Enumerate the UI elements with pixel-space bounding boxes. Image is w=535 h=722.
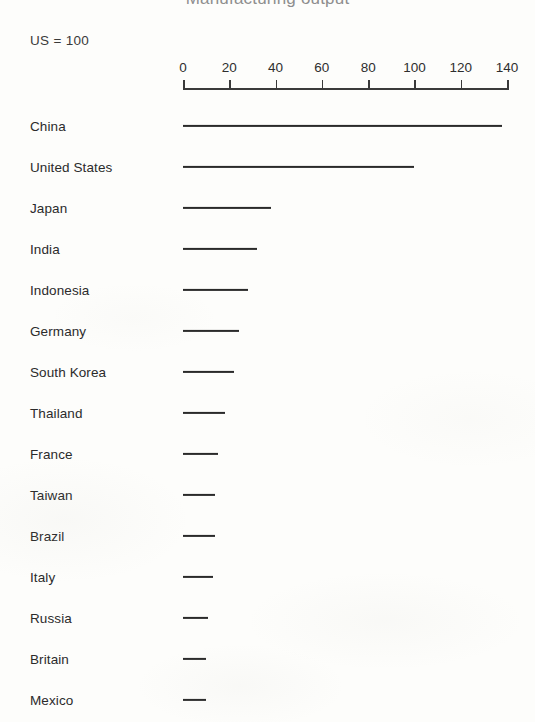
category-label: Germany xyxy=(30,323,86,338)
category-label: India xyxy=(30,241,60,256)
value-bar xyxy=(183,165,414,167)
manufacturing-output-chart: Manufacturing output US = 100 0204060801… xyxy=(0,0,535,722)
x-axis-line xyxy=(183,88,507,90)
value-bar xyxy=(183,411,225,413)
category-label: Taiwan xyxy=(30,487,73,502)
category-label: China xyxy=(30,118,66,133)
value-bar xyxy=(183,575,213,577)
chart-row: Germany xyxy=(0,310,535,351)
x-axis-tick xyxy=(276,80,278,90)
category-label: Italy xyxy=(30,569,55,584)
chart-title-cropped: Manufacturing output xyxy=(0,0,535,9)
x-axis-tick xyxy=(322,80,324,90)
x-axis-tick xyxy=(183,80,185,90)
chart-row: Mexico xyxy=(0,679,535,720)
value-bar xyxy=(183,493,215,495)
value-bar xyxy=(183,329,239,331)
x-axis-tick-label: 120 xyxy=(449,60,472,75)
chart-row: Thailand xyxy=(0,392,535,433)
category-label: Indonesia xyxy=(30,282,89,297)
x-axis-tick xyxy=(229,80,231,90)
x-axis-tick-label: 100 xyxy=(403,60,426,75)
x-axis-tick xyxy=(368,80,370,90)
value-bar xyxy=(183,206,271,208)
value-bar xyxy=(183,124,502,126)
category-label: Mexico xyxy=(30,692,73,707)
chart-subtitle: US = 100 xyxy=(30,33,89,48)
category-label: Russia xyxy=(30,610,72,625)
chart-row: South Korea xyxy=(0,351,535,392)
x-axis-tick-label: 80 xyxy=(361,60,376,75)
chart-title-text: Manufacturing output xyxy=(186,0,350,9)
x-axis-tick-label: 40 xyxy=(268,60,283,75)
chart-row: Britain xyxy=(0,638,535,679)
value-bar xyxy=(183,370,234,372)
chart-row: China xyxy=(0,105,535,146)
value-bar xyxy=(183,616,208,618)
chart-row: Italy xyxy=(0,556,535,597)
x-axis: 020406080100120140 xyxy=(183,88,507,90)
chart-row: United States xyxy=(0,146,535,187)
x-axis-tick-label: 140 xyxy=(496,60,519,75)
x-axis-tick-label: 20 xyxy=(222,60,237,75)
value-bar xyxy=(183,452,218,454)
x-axis-tick xyxy=(461,80,463,90)
category-label: France xyxy=(30,446,73,461)
value-bar xyxy=(183,657,206,659)
category-label: Thailand xyxy=(30,405,83,420)
chart-row: Taiwan xyxy=(0,474,535,515)
category-label: South Korea xyxy=(30,364,106,379)
chart-row: Russia xyxy=(0,597,535,638)
category-label: Brazil xyxy=(30,528,64,543)
value-bar xyxy=(183,534,215,536)
x-axis-tick xyxy=(507,80,509,90)
value-bar xyxy=(183,698,206,700)
x-axis-tick xyxy=(414,80,416,90)
x-axis-tick-label: 60 xyxy=(314,60,329,75)
chart-row: France xyxy=(0,433,535,474)
category-label: United States xyxy=(30,159,112,174)
category-label: Britain xyxy=(30,651,69,666)
chart-row: Brazil xyxy=(0,515,535,556)
value-bar xyxy=(183,247,257,249)
chart-row: Indonesia xyxy=(0,269,535,310)
x-axis-tick-label: 0 xyxy=(179,60,187,75)
chart-row: Japan xyxy=(0,187,535,228)
category-label: Japan xyxy=(30,200,67,215)
chart-row: India xyxy=(0,228,535,269)
value-bar xyxy=(183,288,248,290)
